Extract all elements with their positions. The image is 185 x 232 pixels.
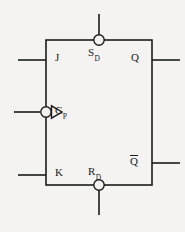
q-bar-overline: Q	[130, 155, 138, 167]
inversion-bubble-sd-icon	[94, 35, 104, 45]
pin-label-sd: SD	[88, 47, 100, 61]
pin-label-rd-subscript: D	[96, 173, 101, 182]
pin-label-cp-subscript: P	[63, 112, 67, 121]
pin-label-q: Q	[131, 52, 139, 63]
diagram-svg	[0, 0, 185, 232]
pin-label-rd: RD	[88, 166, 101, 180]
pin-label-j: J	[55, 52, 59, 63]
inversion-bubble-cp-icon	[41, 107, 51, 117]
pin-label-sd-subscript: D	[94, 54, 99, 63]
pin-label-k: K	[55, 167, 63, 178]
logic-diagram-canvas: J K SD RD Q Q CP	[0, 0, 185, 232]
pin-label-q-bar: Q	[130, 155, 138, 167]
pin-label-cp: CP	[55, 105, 67, 119]
